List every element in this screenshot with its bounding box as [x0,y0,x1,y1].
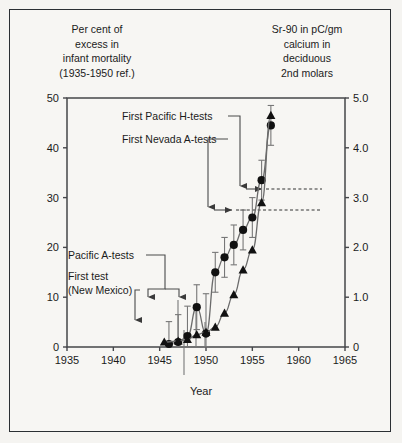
y-tick-label: 50 [47,92,59,104]
data-point-circle [239,226,247,234]
y2-tick-label: 4.0 [353,142,368,154]
y-tick-label: 30 [47,192,59,204]
annotation-label: First test [68,270,108,282]
x-tick-label: 1940 [101,354,125,366]
series-line [164,115,271,342]
data-point-circle [248,213,256,221]
y-tick-label: 10 [47,291,59,303]
y2-tick-label: 2.0 [353,241,368,253]
annotation-label: First Pacific H-tests [122,110,212,122]
data-point-circle [193,303,201,311]
x-tick-label: 1950 [194,354,218,366]
annotation-label: First Nevada A-tests [122,133,217,145]
x-tick-label: 1960 [286,354,310,366]
data-point-circle [211,268,219,276]
figure-container: Per cent of excess in infant mortality (… [0,0,402,443]
y2-tick-label: 0 [353,341,359,353]
data-point-circle [220,253,228,261]
data-point-triangle [266,111,275,119]
x-tick-label: 1935 [55,354,79,366]
x-tick-label: 1945 [147,354,171,366]
x-tick-label: 1955 [240,354,264,366]
leader-pacific-a-tests-branch-right [165,289,179,297]
leader-pacific-a-tests-branch-left [146,255,165,297]
series-sr90 [160,111,276,346]
x-axis-title: Year [190,385,213,397]
data-point-triangle [229,290,238,298]
y-tick-label: 20 [47,241,59,253]
y2-tick-label: 1.0 [353,291,368,303]
data-point-triangle [248,245,257,253]
y-tick-label: 0 [53,341,59,353]
annotation-label: (New Mexico) [68,284,132,296]
data-point-circle [230,241,238,249]
annotation-label: Pacific A-tests [68,249,134,261]
leader-first-pacific-h-tests [228,116,240,186]
leader-first-nevada-a-tests [208,139,228,207]
y2-tick-label: 5.0 [353,92,368,104]
y2-tick-label: 3.0 [353,192,368,204]
data-point-triangle [257,198,266,206]
x-tick-label: 1965 [333,354,357,366]
leader-first-test-new-mexico [135,290,140,320]
plot-area: First Pacific H-testsFirst Nevada A-test… [0,0,402,443]
y-tick-label: 40 [47,142,59,154]
